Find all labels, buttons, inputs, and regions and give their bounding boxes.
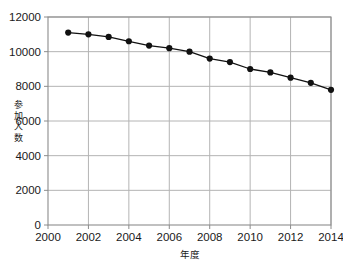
y-axis-title-char: 加	[14, 111, 23, 121]
x-tick-label: 2014	[318, 231, 343, 243]
x-tick-label: 2004	[116, 231, 142, 243]
chart-container: 0200040006000800010000120002000200220042…	[0, 0, 343, 265]
data-point	[166, 45, 172, 51]
y-axis-title-char: 数	[14, 132, 23, 143]
x-tick-label: 2006	[156, 231, 182, 243]
x-axis-title: 年度	[180, 249, 200, 260]
y-axis-title-char: 人	[14, 122, 23, 132]
x-tick-label: 2010	[237, 231, 263, 243]
data-point	[308, 80, 314, 86]
x-tick-label: 2008	[197, 231, 223, 243]
y-tick-label: 0	[35, 219, 41, 231]
data-point	[85, 31, 91, 37]
y-tick-label: 2000	[15, 184, 41, 196]
x-tick-label: 2000	[35, 231, 61, 243]
data-point	[146, 43, 152, 49]
data-point	[267, 69, 273, 75]
y-tick-label: 10000	[9, 46, 41, 58]
data-point	[328, 87, 334, 93]
data-point	[247, 66, 253, 72]
y-tick-label: 4000	[15, 150, 41, 162]
data-point	[126, 38, 132, 44]
data-point	[186, 49, 192, 55]
y-axis-title-char: 参	[14, 99, 23, 110]
data-point	[65, 29, 71, 35]
y-tick-label: 8000	[15, 80, 41, 92]
data-point	[287, 75, 293, 81]
data-point	[207, 56, 213, 62]
x-tick-label: 2002	[76, 231, 102, 243]
data-point	[227, 59, 233, 65]
data-point	[106, 34, 112, 40]
y-tick-label: 12000	[9, 11, 41, 23]
line-chart: 0200040006000800010000120002000200220042…	[0, 0, 343, 265]
x-tick-label: 2012	[278, 231, 304, 243]
